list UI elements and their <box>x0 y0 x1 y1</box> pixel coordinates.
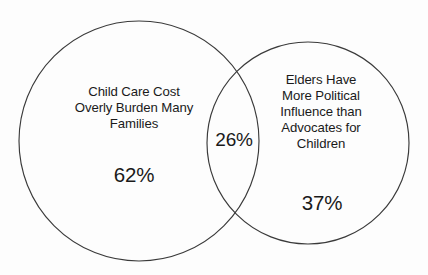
venn-text-layer: Child Care Cost Overly Burden Many Famil… <box>0 0 428 275</box>
overlap-value: 26% <box>203 128 265 151</box>
right-set-value: 37% <box>266 190 378 215</box>
right-set-label: Elders Have More Political Influence tha… <box>262 72 380 152</box>
venn-diagram: Child Care Cost Overly Burden Many Famil… <box>0 0 428 275</box>
left-set-value: 62% <box>44 162 224 187</box>
left-set-label: Child Care Cost Overly Burden Many Famil… <box>44 84 224 132</box>
